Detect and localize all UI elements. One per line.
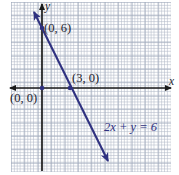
graph-figure: (0, 6) (3, 0) (0, 0) x y 2x + y = 6 [0,0,179,175]
label-origin: (0, 0) [10,92,37,105]
label-x-intercept: (3, 0) [72,72,99,85]
point-origin [40,86,45,91]
point-x-intercept [68,86,73,91]
label-equation: 2x + y = 6 [104,121,157,134]
plot-canvas [0,0,179,175]
label-y-intercept: (0, 6) [44,22,71,35]
label-x-axis: x [169,76,174,88]
label-y-axis: y [45,1,50,13]
